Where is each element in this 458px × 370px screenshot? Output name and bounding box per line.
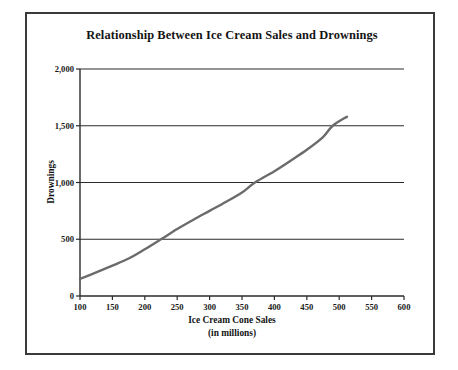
y-axis-title: Drownings <box>46 137 56 227</box>
axis-ticks <box>76 69 404 300</box>
x-axis-title-main: Ice Cream Cone Sales <box>27 314 437 327</box>
x-tick-label: 250 <box>171 302 184 312</box>
series-line-drownings <box>80 117 347 279</box>
x-tick-label: 450 <box>300 302 313 312</box>
gridlines <box>80 69 404 239</box>
x-tick-label: 500 <box>333 302 346 312</box>
x-tick-label: 550 <box>365 302 378 312</box>
y-tick-label: 1,500 <box>34 121 74 131</box>
y-tick-label: 500 <box>34 234 74 244</box>
x-tick-label: 200 <box>138 302 151 312</box>
data-series-line <box>80 117 347 279</box>
x-axis-title: Ice Cream Cone Sales (in millions) <box>27 314 437 340</box>
x-tick-label: 600 <box>398 302 411 312</box>
x-tick-label: 100 <box>74 302 87 312</box>
chart-figure-frame: Relationship Between Ice Cream Sales and… <box>25 12 435 355</box>
x-tick-label: 300 <box>203 302 216 312</box>
y-tick-label: 0 <box>34 291 74 301</box>
y-tick-label: 2,000 <box>34 64 74 74</box>
x-tick-label: 400 <box>268 302 281 312</box>
x-axis-title-sub: (in millions) <box>27 327 437 340</box>
x-tick-label: 350 <box>236 302 249 312</box>
x-tick-label: 150 <box>106 302 119 312</box>
